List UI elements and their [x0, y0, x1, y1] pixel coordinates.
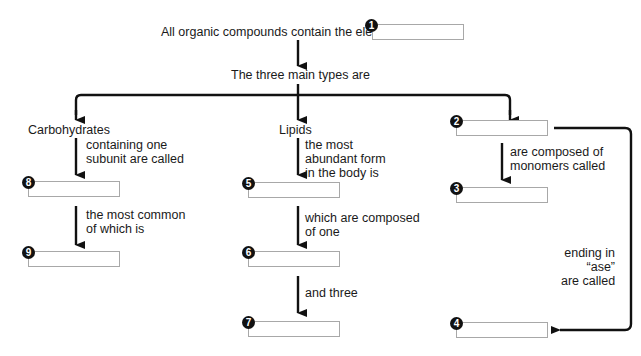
lipids-step2-line1: which are composed [305, 211, 420, 225]
number-badge-5: 5 [242, 177, 255, 190]
number-badge-7: 7 [242, 316, 255, 329]
number-badge-3: 3 [450, 182, 463, 195]
lipids-step2-line2: of one [305, 225, 340, 239]
carbohydrates-label: Carbohydrates [28, 123, 110, 137]
lipids-step1-line1: the most [305, 138, 353, 152]
carbs-step2-line2: of which is [86, 222, 144, 236]
number-badge-6: 6 [242, 246, 255, 259]
lipids-step1-line2: abundant form [305, 152, 386, 166]
third-step1-line1: are composed of [510, 145, 603, 159]
answer-box-4[interactable] [456, 322, 548, 338]
lipids-step1-line3: in the body is [305, 166, 379, 180]
answer-box-2[interactable] [456, 120, 548, 136]
answer-box-6[interactable] [248, 251, 340, 267]
root-statement: All organic compounds contain the elemen… [161, 25, 400, 39]
number-badge-2: 2 [450, 115, 463, 128]
answer-box-1[interactable] [372, 24, 464, 40]
answer-box-5[interactable] [248, 182, 340, 198]
number-badge-4: 4 [450, 317, 463, 330]
number-badge-9: 9 [22, 246, 35, 259]
third-step2-line2: “ase” [561, 260, 615, 274]
answer-box-3[interactable] [456, 187, 548, 203]
third-step1-line2: monomers called [510, 159, 605, 173]
types-statement: The three main types are [231, 68, 370, 82]
third-step2-line1: ending in [561, 246, 615, 260]
answer-box-7[interactable] [248, 321, 340, 337]
carbs-step1-line1: containing one [86, 138, 167, 152]
answer-box-8[interactable] [28, 181, 120, 197]
lipids-step3-line1: and three [305, 286, 358, 300]
carbs-step1-line2: subunit are called [86, 152, 184, 166]
number-badge-1: 1 [365, 19, 378, 32]
third-step2-line3: are called [561, 274, 615, 288]
lipids-label: Lipids [279, 123, 312, 137]
carbs-step2-line1: the most common [86, 208, 185, 222]
number-badge-8: 8 [22, 176, 35, 189]
answer-box-9[interactable] [28, 251, 120, 267]
